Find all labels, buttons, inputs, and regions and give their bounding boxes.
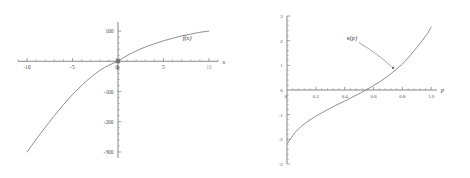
right-x-tick-label: 0.8	[399, 94, 406, 99]
left-origin-marker	[116, 59, 120, 64]
left-y-tick-label: -300	[104, 149, 114, 155]
right-x-tick-label: 0.2	[313, 94, 320, 99]
right-y-tick-label: -2	[279, 137, 284, 142]
right-curve-label: κ(p)	[347, 34, 358, 42]
right-y-tick-label: 1	[280, 63, 283, 68]
left-y-tick-label: -100	[104, 89, 114, 95]
left-plot-svg: -10-505101000-100-200-300xf(x)	[0, 0, 235, 178]
left-plot-panel: -10-505101000-100-200-300xf(x)	[0, 0, 235, 178]
right-annotation-leader	[359, 43, 392, 67]
left-x-tick-label: -10	[23, 64, 30, 70]
right-plot-svg: 00.20.40.60.81.03210-1-2-3pκ(p)	[235, 0, 470, 178]
left-y-tick-label: 0	[115, 64, 118, 70]
left-x-tick-label: -5	[70, 64, 75, 70]
right-x-axis-label: p	[440, 87, 444, 93]
left-x-axis-label: x	[222, 59, 226, 65]
right-y-tick-label: 0	[280, 88, 283, 93]
right-x-tick-label: 1.0	[428, 94, 435, 99]
right-annotation-point	[392, 67, 394, 69]
figure-canvas: -10-505101000-100-200-300xf(x) 00.20.40.…	[0, 0, 470, 178]
right-plot-panel: 00.20.40.60.81.03210-1-2-3pκ(p)	[235, 0, 470, 178]
left-y-tick-label: -200	[104, 119, 114, 125]
right-y-tick-label: 2	[280, 39, 283, 44]
right-x-tick-label: 0.4	[342, 94, 349, 99]
left-x-tick-label: 10	[206, 64, 212, 70]
left-x-tick-label: 5	[162, 64, 165, 70]
left-y-tick-label: 100	[105, 28, 113, 34]
right-y-tick-label: 3	[280, 14, 283, 19]
right-y-tick-label: -3	[279, 162, 284, 167]
left-curve-label: f(x)	[183, 34, 192, 42]
right-x-tick-label: 0.6	[370, 94, 377, 99]
right-y-tick-label: -1	[279, 113, 284, 118]
right-curve	[288, 27, 431, 143]
